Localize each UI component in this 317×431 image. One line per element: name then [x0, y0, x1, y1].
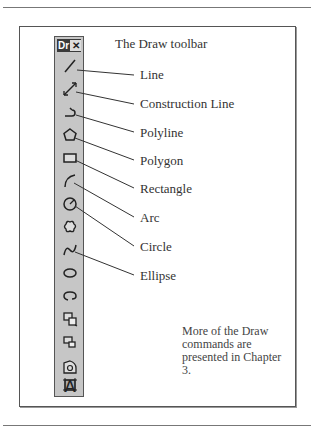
polygon-icon: [61, 126, 79, 144]
chapter-note: More of the Draw commands are presented …: [182, 325, 292, 377]
arc-button[interactable]: [61, 172, 79, 190]
arc-icon: [61, 172, 79, 190]
label-circle: Circle: [140, 239, 172, 255]
toolbar-title-bar[interactable]: Dr ✕: [57, 39, 81, 52]
label-line: Line: [140, 67, 164, 83]
insert-block-button[interactable]: [61, 310, 79, 328]
rectangle-icon: [61, 149, 79, 167]
make-block-icon: [61, 333, 79, 351]
insert-block-icon: [61, 310, 79, 328]
label-construction-line: Construction Line: [140, 96, 234, 112]
rectangle-button[interactable]: [61, 149, 79, 167]
spline-icon: [61, 241, 79, 259]
label-polyline: Polyline: [140, 125, 183, 141]
polygon-button[interactable]: [61, 126, 79, 144]
ellipse-icon: [61, 264, 79, 282]
ellipse-button[interactable]: [61, 264, 79, 282]
make-block-button[interactable]: [61, 333, 79, 351]
figure-title: The Draw toolbar: [115, 36, 207, 52]
label-arc: Arc: [140, 210, 160, 226]
circle-button[interactable]: [61, 195, 79, 213]
line-button[interactable]: [61, 57, 79, 75]
region-icon: [61, 358, 79, 376]
ellipse-arc-icon: [61, 287, 79, 305]
close-icon[interactable]: ✕: [70, 40, 81, 51]
revision-cloud-icon: [61, 218, 79, 236]
label-ellipse: Ellipse: [140, 268, 176, 284]
line-icon: [61, 57, 79, 75]
spline-button[interactable]: [61, 241, 79, 259]
label-rectangle: Rectangle: [140, 181, 192, 197]
bottom-rule: [3, 425, 311, 426]
top-rule: [3, 7, 311, 8]
construction-line-icon: [61, 80, 79, 98]
draw-toolbar: Dr ✕: [54, 36, 84, 397]
region-button[interactable]: [61, 358, 79, 376]
revision-cloud-button[interactable]: [61, 218, 79, 236]
construction-line-button[interactable]: [61, 80, 79, 98]
label-polygon: Polygon: [140, 153, 183, 169]
multiline-text-button[interactable]: A: [61, 378, 79, 396]
toolbar-title: Dr: [58, 39, 69, 52]
polyline-icon: [61, 103, 79, 121]
ellipse-arc-button[interactable]: [61, 287, 79, 305]
circle-icon: [61, 195, 79, 213]
polyline-button[interactable]: [61, 103, 79, 121]
